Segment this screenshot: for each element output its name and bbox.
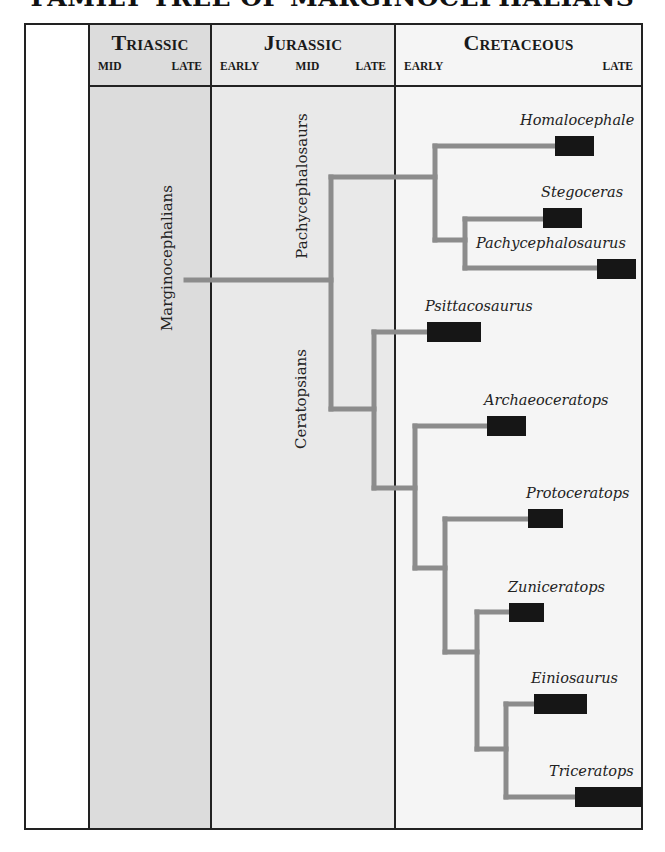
epoch-label: EARLY <box>220 60 259 72</box>
taxon-label-einiosaurus: Einiosaurus <box>531 671 618 686</box>
epoch-label: MID <box>296 60 320 72</box>
period-name-cretaceous: Cretaceous <box>396 30 641 56</box>
header-divider <box>88 85 641 87</box>
epoch-label: LATE <box>172 60 202 72</box>
label-column <box>26 25 88 828</box>
taxon-label-homalocephale: Homalocephale <box>520 113 634 128</box>
taxon-label-archaeoceratops: Archaeoceratops <box>484 393 608 408</box>
period-name-triassic: Triassic <box>90 30 210 56</box>
epoch-label: MID <box>98 60 122 72</box>
period-column-triassic: Triassic MID LATE <box>88 25 210 828</box>
diagram-title: FAMILY TREE OF MARGINOCEPHALIANS <box>0 0 665 12</box>
taxon-label-zuniceratops: Zuniceratops <box>508 580 605 595</box>
epoch-row-jurassic: EARLY MID LATE <box>220 60 386 72</box>
epoch-label: LATE <box>603 60 633 72</box>
taxon-label-triceratops: Triceratops <box>549 764 634 779</box>
epoch-label: LATE <box>356 60 386 72</box>
period-name-jurassic: Jurassic <box>212 30 394 56</box>
epoch-label: EARLY <box>404 60 443 72</box>
epoch-row-triassic: MID LATE <box>98 60 202 72</box>
clade-label-ceratopsians: Ceratopsians <box>294 342 310 456</box>
taxon-label-protoceratops: Protoceratops <box>526 486 630 501</box>
period-column-cretaceous: Cretaceous EARLY LATE <box>394 25 641 828</box>
epoch-row-cretaceous: EARLY LATE <box>404 60 633 72</box>
clade-label-marginocephalians: Marginocephalians <box>160 183 176 333</box>
taxon-label-stegoceras: Stegoceras <box>541 185 623 200</box>
taxon-label-pachycephalosaurus: Pachycephalosaurus <box>476 236 626 251</box>
taxon-label-psittacosaurus: Psittacosaurus <box>425 299 533 314</box>
clade-label-pachycephalosaurs: Pachycephalosaurs <box>295 108 311 264</box>
geologic-time-table: Triassic MID LATE Jurassic EARLY MID LAT… <box>24 23 643 830</box>
